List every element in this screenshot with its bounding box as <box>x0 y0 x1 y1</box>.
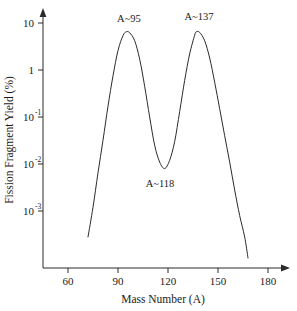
fission-yield-plot: 10 1 10 -1 10 -2 10 -3 60 90 120 150 180… <box>0 0 297 311</box>
x-tick-labels: 60 90 120 150 180 <box>63 275 277 287</box>
x-tick-label: 60 <box>63 275 75 287</box>
y-tick-exponent: -2 <box>35 155 41 164</box>
x-tick-label: 180 <box>260 275 277 287</box>
x-axis-arrow-icon <box>281 265 290 272</box>
annotation-peak-heavy: A~137 <box>184 11 213 22</box>
y-tick-label: 1 <box>29 64 35 76</box>
chart-figure: 10 1 10 -1 10 -2 10 -3 60 90 120 150 180… <box>0 0 297 311</box>
y-tick-label: 10 <box>23 158 35 170</box>
x-tick-label: 120 <box>160 275 177 287</box>
y-tick-exponent: -3 <box>35 202 41 211</box>
x-tick-label: 90 <box>113 275 125 287</box>
y-tick-label: 10 <box>23 111 35 123</box>
x-tick-marks <box>68 268 268 273</box>
y-axis-arrow-icon <box>40 8 47 17</box>
y-tick-label: 10 <box>23 17 35 29</box>
x-tick-label: 150 <box>210 275 227 287</box>
yield-curve <box>88 31 248 258</box>
x-axis-title: Mass Number (A) <box>121 293 205 306</box>
annotation-peak-light: A~95 <box>117 13 141 24</box>
y-tick-exponent: -1 <box>35 108 41 117</box>
y-axis-title: Fission Fragment Yield (%) <box>3 76 16 204</box>
annotation-valley: A~118 <box>146 178 175 189</box>
y-tick-marks <box>38 23 43 211</box>
y-tick-label: 10 <box>23 205 35 217</box>
